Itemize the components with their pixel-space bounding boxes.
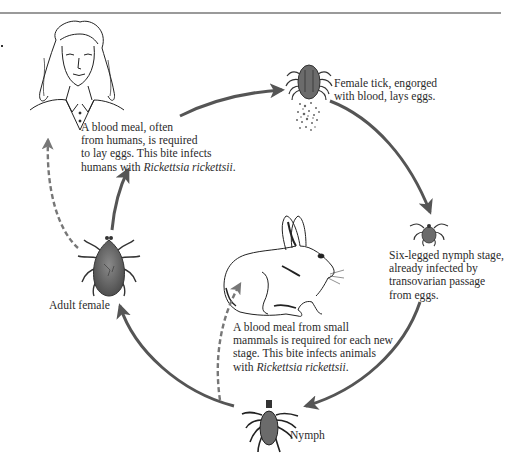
caption-line: transovarian passage — [389, 275, 504, 288]
caption-text: humans with — [81, 161, 143, 174]
caption-line: A blood meal from small — [233, 321, 393, 334]
caption-engorged-female: Female tick, engorged with blood, lays e… — [334, 77, 437, 103]
caption-line: with blood, lays eggs. — [334, 90, 437, 103]
caption-line: humans with Rickettsia rickettsii. — [81, 161, 236, 174]
life-cycle-artwork — [0, 0, 526, 475]
caption-line: stage. This bite infects animals — [233, 347, 393, 360]
caption-line: from humans, is required — [81, 134, 236, 147]
label-nymph: Nymph — [290, 429, 325, 442]
label-adult-female: Adult female — [49, 299, 110, 312]
caption-line: Female tick, engorged — [334, 77, 437, 90]
caption-human-blood-meal: A blood meal, often from humans, is requ… — [81, 121, 236, 174]
caption-line: with Rickettsia rickettsii. — [233, 361, 393, 374]
species-name: Rickettsia rickettsii — [143, 161, 232, 174]
caption-six-legged-nymph: Six-legged nymph stage, already infected… — [389, 249, 504, 302]
adult-female-tick-icon — [78, 236, 140, 296]
caption-line: A blood meal, often — [81, 121, 236, 134]
six-legged-larva-tick-icon — [410, 224, 448, 246]
infection-arrows — [48, 140, 240, 400]
nymph-tick-icon — [242, 400, 298, 452]
caption-text: . — [346, 361, 349, 374]
arrow-nymph-to-adult — [120, 306, 234, 406]
caption-line: already infected by — [389, 262, 504, 275]
arrow-adult-to-human-meal — [112, 170, 128, 230]
caption-text: with — [233, 361, 257, 374]
engorged-tick-laying-eggs-icon — [286, 65, 332, 131]
human-woman-illustration — [30, 21, 124, 130]
dashed-arrow-adult-to-human — [48, 140, 78, 248]
arrow-meal-to-engorged — [180, 90, 282, 116]
caption-line: mammals is required for each new — [233, 334, 393, 347]
caption-mammal-blood-meal: A blood meal from small mammals is requi… — [233, 321, 393, 374]
arrow-engorged-to-larva — [330, 101, 430, 212]
caption-line: Six-legged nymph stage, — [389, 249, 504, 262]
rabbit-illustration — [224, 216, 344, 316]
caption-text: . — [233, 161, 236, 174]
species-name: Rickettsia rickettsii — [257, 361, 346, 374]
caption-line: to lay eggs. This bite infects — [81, 147, 236, 160]
caption-line: from eggs. — [389, 289, 504, 302]
